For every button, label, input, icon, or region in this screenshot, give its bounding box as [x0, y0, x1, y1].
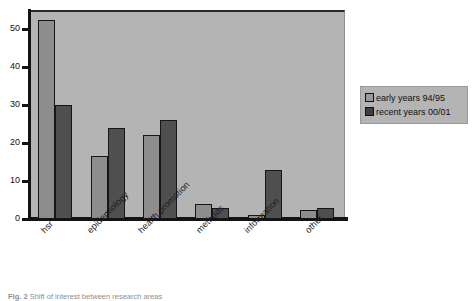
bar-recent-hsr — [55, 105, 72, 219]
legend-swatch-icon-early — [365, 93, 374, 102]
y-axis-tick-label: 10 — [0, 176, 20, 185]
legend-label-recent: recent years 00/01 — [376, 107, 451, 117]
y-axis-tick — [22, 28, 30, 31]
x-axis-label-hsr: hsr — [39, 219, 55, 235]
y-axis-tick — [22, 142, 30, 145]
y-axis-tick-label: 20 — [0, 138, 20, 147]
figure-caption-text: Shift of interest between research areas — [30, 292, 163, 301]
y-axis-tick-label: 50 — [0, 24, 20, 33]
legend-swatch-icon-recent — [365, 107, 374, 116]
y-axis-tick — [22, 180, 30, 183]
y-axis-tick-label: 40 — [0, 62, 20, 71]
legend-item-early: early years 94/95 — [365, 91, 462, 104]
y-axis-tick — [22, 104, 30, 107]
y-axis-tick-label: 0 — [0, 214, 20, 223]
chart-legend: early years 94/95 recent years 00/01 — [360, 86, 468, 124]
y-axis-tick-label: 30 — [0, 100, 20, 109]
figure-caption: Fig. 2 Shift of interest between researc… — [8, 292, 448, 301]
legend-item-recent: recent years 00/01 — [365, 105, 462, 118]
figure-caption-label: Fig. 2 — [8, 292, 28, 301]
legend-label-early: early years 94/95 — [376, 93, 445, 103]
y-axis-tick — [22, 218, 30, 221]
y-axis-tick — [22, 66, 30, 69]
bar-early-hsr — [38, 20, 55, 220]
